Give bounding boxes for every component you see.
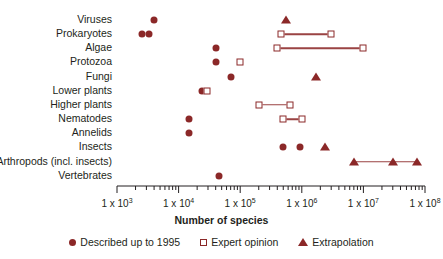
data-point-described <box>215 172 222 179</box>
data-point-described <box>212 59 219 66</box>
tick-mantissa: 1 x 10 <box>163 198 190 209</box>
legend-item-described-up-to-1995: Described up to 1995 <box>69 236 180 248</box>
plot-area <box>0 0 443 185</box>
range-line <box>259 104 291 106</box>
tick-exponent: 8 <box>437 197 441 204</box>
x-tick-label-1e4: 1 x 104 <box>163 198 194 209</box>
x-tick-label-1e7: 1 x 107 <box>348 198 379 209</box>
tick-mantissa: 1 x 10 <box>101 198 128 209</box>
data-point-described <box>151 17 158 24</box>
data-point-expert-opinion <box>204 87 211 94</box>
data-point-extrapolation <box>388 157 398 165</box>
tick-mantissa: 1 x 10 <box>348 198 375 209</box>
data-point-expert-opinion <box>255 101 262 108</box>
tick-exponent: 7 <box>375 197 379 204</box>
data-point-described <box>138 31 145 38</box>
data-point-described <box>297 144 304 151</box>
tick-exponent: 5 <box>252 197 256 204</box>
x-tick-label-1e8: 1 x 108 <box>409 198 440 209</box>
chart-legend: Described up to 1995Expert opinionExtrap… <box>0 236 443 248</box>
data-point-extrapolation <box>281 16 291 24</box>
data-point-extrapolation <box>349 157 359 165</box>
data-point-described <box>227 73 234 80</box>
data-point-extrapolation <box>320 143 330 151</box>
data-point-expert-opinion <box>287 101 294 108</box>
data-point-expert-opinion <box>298 116 305 123</box>
range-line <box>354 161 417 163</box>
data-point-expert-opinion <box>278 31 285 38</box>
data-point-expert-opinion <box>274 45 281 52</box>
x-tick-label-1e3: 1 x 103 <box>101 198 132 209</box>
tick-exponent: 3 <box>129 197 133 204</box>
legend-label: Described up to 1995 <box>80 236 180 248</box>
tick-exponent: 4 <box>190 197 194 204</box>
legend-item-expert-opinion: Expert opinion <box>200 236 278 248</box>
x-tick-label-1e6: 1 x 106 <box>286 198 317 209</box>
tick-mantissa: 1 x 10 <box>286 198 313 209</box>
tick-exponent: 6 <box>313 197 317 204</box>
data-point-expert-opinion <box>237 59 244 66</box>
data-point-expert-opinion <box>328 31 335 38</box>
tick-mantissa: 1 x 10 <box>409 198 436 209</box>
data-point-extrapolation <box>311 72 321 80</box>
filled-circle-icon <box>69 239 76 246</box>
range-line <box>281 33 331 35</box>
data-point-extrapolation <box>412 157 422 165</box>
legend-label: Extrapolation <box>312 236 373 248</box>
tick-mantissa: 1 x 10 <box>225 198 252 209</box>
data-point-described <box>186 116 193 123</box>
data-point-expert-opinion <box>360 45 367 52</box>
x-tick-label-1e5: 1 x 105 <box>225 198 256 209</box>
x-axis-title: Number of species <box>0 214 443 226</box>
legend-label: Expert opinion <box>211 236 278 248</box>
data-point-described <box>212 45 219 52</box>
filled-triangle-icon <box>298 238 308 246</box>
range-line <box>277 48 363 50</box>
data-point-described <box>280 144 287 151</box>
open-square-icon <box>200 239 207 246</box>
data-point-described <box>186 130 193 137</box>
legend-item-extrapolation: Extrapolation <box>298 236 373 248</box>
data-point-described <box>145 31 152 38</box>
species-count-chart: VirusesProkaryotesAlgaeProtozoaFungiLowe… <box>0 0 443 259</box>
data-point-expert-opinion <box>280 116 287 123</box>
